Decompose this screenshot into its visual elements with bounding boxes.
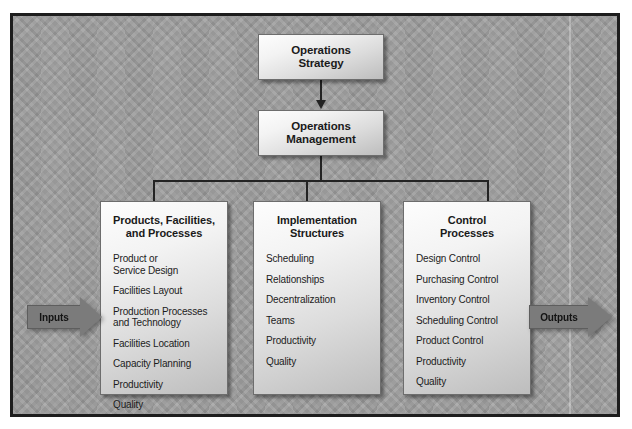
list-item: Quality xyxy=(416,376,521,388)
background-seam-line xyxy=(569,16,571,414)
list-item: Quality xyxy=(113,399,218,411)
node-operations-management-title: Operations Management xyxy=(286,120,355,147)
node-products-facilities-and-processes[interactable]: Products, Facilities, and Processes Prod… xyxy=(100,201,228,395)
list-item: Scheduling Control xyxy=(416,315,521,327)
node-operations-strategy-line2: Strategy xyxy=(298,57,343,69)
column-title-products-line2: and Processes xyxy=(126,227,202,239)
list-item: Productivity xyxy=(113,379,218,391)
connector-management-down xyxy=(320,156,322,180)
outputs-arrowhead xyxy=(588,297,612,337)
inputs-arrowhead xyxy=(80,297,102,337)
list-item: Purchasing Control xyxy=(416,274,521,286)
list-item-line1: Quality xyxy=(416,376,446,387)
column-title-products: Products, Facilities, and Processes xyxy=(110,214,218,240)
column-title-control: Control Processes xyxy=(413,214,521,240)
list-item-line1: Teams xyxy=(266,315,295,326)
list-item-line1: Relationships xyxy=(266,274,324,285)
column-title-implementation-line2: Structures xyxy=(290,227,344,239)
list-item-line1: Inventory Control xyxy=(416,294,490,305)
column-title-control-line1: Control xyxy=(448,214,486,226)
list-item: Facilities Layout xyxy=(113,285,218,297)
node-operations-management-line1: Operations xyxy=(291,120,351,132)
list-item: Decentralization xyxy=(266,294,371,306)
list-item-line1: Productivity xyxy=(113,379,163,390)
list-item-line1: Decentralization xyxy=(266,294,335,305)
node-operations-management-line2: Management xyxy=(286,133,355,145)
list-item-line1: Product Control xyxy=(416,335,483,346)
column-title-implementation: Implementation Structures xyxy=(263,214,371,240)
list-item-line1: Scheduling xyxy=(266,253,314,264)
column-list-implementation: Scheduling Relationships Decentralizatio… xyxy=(263,253,371,367)
list-item-line1: Design Control xyxy=(416,253,480,264)
outputs-label: Outputs xyxy=(540,312,578,323)
connector-branch-right xyxy=(487,180,489,201)
inputs-arrow-shaft: Inputs xyxy=(27,305,80,329)
list-item-line2: and Technology xyxy=(113,317,181,328)
list-item-line1: Production Processes xyxy=(113,306,207,317)
list-item: Productivity xyxy=(266,335,371,347)
node-operations-strategy[interactable]: Operations Strategy xyxy=(258,34,384,80)
list-item: Design Control xyxy=(416,253,521,265)
list-item-line1: Productivity xyxy=(416,356,466,367)
column-title-products-line1: Products, Facilities, xyxy=(113,214,215,226)
node-operations-strategy-line1: Operations xyxy=(291,44,351,56)
column-list-control: Design Control Purchasing Control Invent… xyxy=(413,253,521,388)
list-item: Facilities Location xyxy=(113,338,218,350)
list-item: Teams xyxy=(266,315,371,327)
node-operations-management[interactable]: Operations Management xyxy=(258,110,384,156)
inputs-label: Inputs xyxy=(39,312,68,323)
list-item-line1: Product or xyxy=(113,253,158,264)
column-title-implementation-line1: Implementation xyxy=(277,214,357,226)
list-item-line1: Facilities Layout xyxy=(113,285,182,296)
list-item-line1: Purchasing Control xyxy=(416,274,498,285)
list-item: Product Control xyxy=(416,335,521,347)
list-item-line1: Capacity Planning xyxy=(113,358,191,369)
list-item: Production Processes and Technology xyxy=(113,306,218,329)
column-title-control-line2: Processes xyxy=(440,227,494,239)
arrowhead-down-icon xyxy=(316,100,326,109)
node-operations-strategy-title: Operations Strategy xyxy=(291,44,351,71)
connector-horizontal-bus xyxy=(153,180,489,182)
list-item-line1: Productivity xyxy=(266,335,316,346)
list-item-line1: Facilities Location xyxy=(113,338,190,349)
list-item: Product or Service Design xyxy=(113,253,218,276)
inputs-arrow-icon: Inputs xyxy=(27,297,102,337)
node-control-processes[interactable]: Control Processes Design Control Purchas… xyxy=(403,201,531,395)
list-item-line1: Quality xyxy=(266,356,296,367)
list-item-line1: Scheduling Control xyxy=(416,315,498,326)
list-item-line2: Service Design xyxy=(113,265,178,276)
outputs-arrow-icon: Outputs xyxy=(529,297,612,337)
column-list-products: Product or Service Design Facilities Lay… xyxy=(110,253,218,411)
list-item: Productivity xyxy=(416,356,521,368)
connector-branch-left xyxy=(153,180,155,201)
list-item: Relationships xyxy=(266,274,371,286)
node-implementation-structures[interactable]: Implementation Structures Scheduling Rel… xyxy=(253,201,381,395)
list-item: Quality xyxy=(266,356,371,368)
list-item: Scheduling xyxy=(266,253,371,265)
outputs-arrow-shaft: Outputs xyxy=(529,305,588,329)
list-item: Capacity Planning xyxy=(113,358,218,370)
diagram-frame: Operations Strategy Operations Managemen… xyxy=(10,13,620,417)
list-item-line1: Quality xyxy=(113,399,143,410)
connector-branch-middle xyxy=(306,180,308,201)
list-item: Inventory Control xyxy=(416,294,521,306)
